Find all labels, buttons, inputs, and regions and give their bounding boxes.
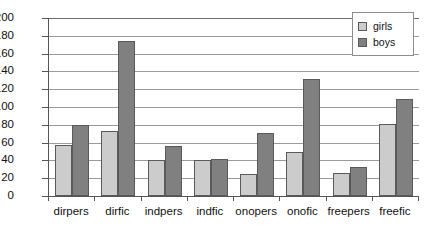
bar-chart: 200180160140120100806040200 dirpersdirfi… <box>0 0 438 236</box>
bar-boys[interactable] <box>118 41 135 196</box>
legend-swatch-icon <box>358 38 367 47</box>
y-axis-tick-label: 0 <box>0 190 14 201</box>
bar-group <box>234 18 280 196</box>
x-axis-tick-mark <box>94 196 95 201</box>
legend-rows: girlsboys <box>358 18 409 50</box>
y-axis-tick-label: 120 <box>0 83 14 94</box>
legend-swatch-icon <box>358 22 367 31</box>
bar-group <box>95 18 141 196</box>
bar-girls[interactable] <box>194 160 211 196</box>
bar-girls[interactable] <box>148 160 165 196</box>
chart-legend: girlsboys <box>352 12 414 56</box>
bar-boys[interactable] <box>211 159 228 196</box>
bar-boys[interactable] <box>396 99 413 196</box>
bar-group <box>142 18 188 196</box>
y-axis-tick-label: 80 <box>0 119 14 130</box>
bar-girls[interactable] <box>379 124 396 196</box>
bar-boys[interactable] <box>257 133 274 196</box>
bar-boys[interactable] <box>72 125 89 196</box>
x-axis-tick-mark <box>418 196 419 201</box>
bar-boys[interactable] <box>165 146 182 196</box>
bar-girls[interactable] <box>55 145 72 196</box>
bar-boys[interactable] <box>303 79 320 196</box>
legend-item-label: boys <box>373 37 395 48</box>
y-axis-tick-label: 20 <box>0 172 14 183</box>
x-axis-tick-mark <box>141 196 142 201</box>
bar-girls[interactable] <box>101 131 118 196</box>
bar-boys[interactable] <box>350 167 367 196</box>
y-axis-tick-label: 200 <box>0 12 14 23</box>
x-axis-category-label: freefic <box>350 205 438 218</box>
x-axis-tick-mark <box>187 196 188 201</box>
x-axis-tick-mark <box>48 196 49 201</box>
bar-group <box>280 18 326 196</box>
bar-girls[interactable] <box>333 173 350 196</box>
legend-item-boys[interactable]: boys <box>358 34 409 50</box>
y-axis-tick-label: 40 <box>0 154 14 165</box>
legend-item-girls[interactable]: girls <box>358 18 409 34</box>
y-axis-tick-label: 60 <box>0 137 14 148</box>
bar-girls[interactable] <box>286 152 303 196</box>
bar-group <box>188 18 234 196</box>
bar-group <box>49 18 95 196</box>
x-axis-tick-mark <box>233 196 234 201</box>
bar-girls[interactable] <box>240 174 257 196</box>
x-axis-tick-mark <box>326 196 327 201</box>
y-axis-tick-label: 180 <box>0 30 14 41</box>
x-axis-tick-mark <box>279 196 280 201</box>
y-axis-tick-label: 140 <box>0 65 14 76</box>
y-axis-tick-label: 160 <box>0 48 14 59</box>
x-axis-tick-mark <box>372 196 373 201</box>
y-axis-tick-label: 100 <box>0 101 14 112</box>
legend-item-label: girls <box>373 21 392 32</box>
